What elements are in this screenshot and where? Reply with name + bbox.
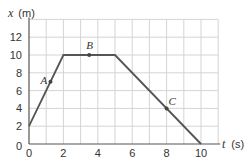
annotated-points: ABC	[40, 39, 177, 110]
x-tick-label: 0	[26, 147, 32, 159]
point-a	[49, 80, 53, 84]
y-tick-label: 2	[16, 120, 22, 132]
y-tick-label: 0	[16, 140, 22, 152]
y-tick-label: 8	[16, 67, 22, 79]
x-tick-label: 6	[129, 147, 135, 159]
grid	[29, 19, 218, 144]
tick-labels: 0246810024681012	[10, 31, 207, 159]
x-tick-label: 2	[60, 147, 66, 159]
y-tick-label: 10	[10, 49, 22, 61]
x-tick-label: 10	[195, 147, 207, 159]
y-axis-label: x (m)	[7, 6, 35, 20]
x-tick-label: 4	[95, 147, 101, 159]
position-time-chart: 0246810024681012 ABC x (m) t (s)	[0, 0, 248, 162]
y-tick-label: 6	[16, 85, 22, 97]
point-label-c: C	[169, 95, 177, 107]
point-b	[87, 53, 91, 57]
x-axis-label: t (s)	[222, 137, 244, 151]
point-label-a: A	[40, 74, 48, 86]
y-tick-label: 12	[10, 31, 22, 43]
axes	[29, 17, 220, 144]
y-tick-label: 4	[16, 102, 22, 114]
x-tick-label: 8	[164, 147, 170, 159]
point-label-b: B	[86, 39, 93, 51]
